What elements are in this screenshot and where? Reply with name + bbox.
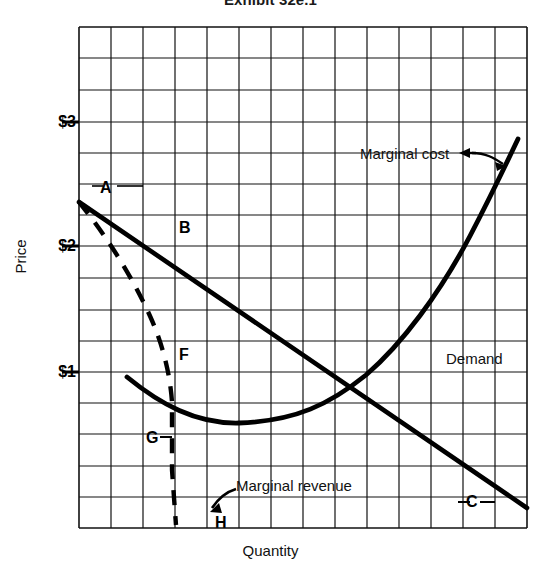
- grid-lines: [79, 27, 527, 528]
- marginal-revenue-leader-line: [210, 489, 236, 513]
- marginal-cost-leader-line: [459, 148, 506, 171]
- chart-figure: Exhibit 32e.1 Price Quantity $3 $2 $1 A …: [0, 0, 541, 567]
- plot-canvas: [0, 0, 541, 567]
- marginal-cost-curve: [127, 139, 518, 423]
- marginal-revenue-curve: [79, 202, 176, 525]
- y-axis-ticks: [62, 122, 79, 372]
